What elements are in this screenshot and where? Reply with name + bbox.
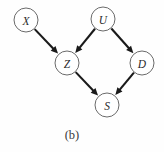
node-label: X [21, 15, 30, 27]
edge-x-to-z [35, 29, 58, 53]
edge-line [76, 72, 94, 91]
edge-z-to-s [76, 72, 98, 95]
node-s[interactable]: S [95, 93, 119, 117]
node-u[interactable]: U [91, 7, 115, 31]
node-label: U [99, 14, 108, 26]
edge-u-to-z [75, 29, 95, 53]
figure-caption: (b) [65, 128, 80, 142]
node-label: Z [64, 58, 71, 70]
node-label: S [104, 100, 110, 112]
node-x[interactable]: X [14, 8, 38, 32]
figure-container: XUZDS (b) [0, 0, 164, 152]
edge-line [35, 29, 54, 49]
nodes-group: XUZDS [14, 7, 154, 117]
node-d[interactable]: D [130, 51, 154, 75]
edge-line [119, 73, 134, 91]
dag-diagram: XUZDS (b) [0, 0, 164, 152]
edge-line [111, 28, 129, 48]
edges-group [35, 28, 134, 95]
edge-d-to-s [115, 73, 134, 95]
node-label: D [137, 58, 147, 70]
edge-u-to-d [111, 28, 133, 53]
edge-line [79, 29, 95, 49]
node-z[interactable]: Z [55, 51, 79, 75]
